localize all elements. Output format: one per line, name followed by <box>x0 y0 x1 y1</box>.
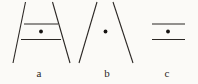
panel-b <box>79 2 133 63</box>
panel-b-center-dot <box>104 30 108 34</box>
panel-b-left-slant <box>79 2 97 63</box>
panel-a-left-slant <box>13 2 26 63</box>
panel-label-b: b <box>97 68 117 79</box>
figure-diagram: a b c <box>0 0 198 84</box>
panel-label-a: a <box>29 68 49 79</box>
panel-b-right-slant <box>113 2 133 63</box>
panel-a-right-slant <box>53 2 71 63</box>
panel-c <box>152 24 185 40</box>
panel-a <box>13 2 70 63</box>
panel-label-c: c <box>157 68 177 79</box>
panel-a-center-dot <box>39 30 43 34</box>
panel-c-center-dot <box>166 30 170 34</box>
